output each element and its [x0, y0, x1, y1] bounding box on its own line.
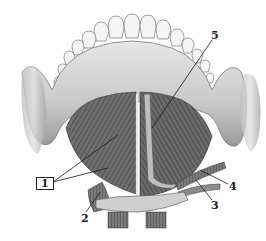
mandible-floor-illustration	[0, 0, 266, 241]
label-5: 5	[211, 30, 219, 41]
label-3: 3	[211, 200, 219, 211]
strap-muscle-right	[146, 212, 166, 228]
label-1: 1	[36, 177, 54, 190]
label-2: 2	[81, 213, 89, 224]
label-4: 4	[229, 181, 237, 192]
right-ramus	[240, 74, 261, 152]
strap-muscle-left	[108, 212, 128, 228]
